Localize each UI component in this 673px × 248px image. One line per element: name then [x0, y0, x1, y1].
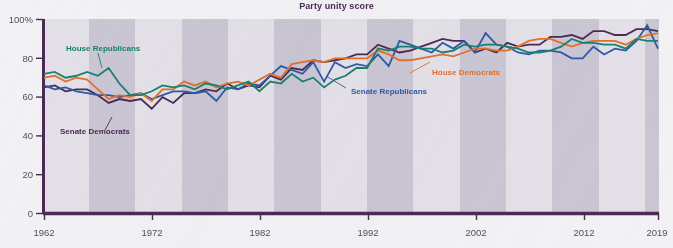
- chart-svg: 100% 80 60 40 20 0 1962 1972 1982 1992 2…: [0, 0, 673, 248]
- y-axis: [36, 19, 44, 214]
- annotation-senate-republicans: Senate Republicans: [351, 87, 428, 96]
- x-tick-2019: 2019: [646, 227, 667, 238]
- chart-container: Party unity score: [0, 0, 673, 248]
- y-tick-0: 0: [28, 208, 33, 219]
- y-tick-20: 20: [22, 169, 33, 180]
- y-tick-100: 100%: [9, 14, 34, 25]
- annotation-senate-democrats: Senate Democrats: [60, 127, 130, 136]
- x-tick-2002: 2002: [465, 227, 486, 238]
- x-tick-2012: 2012: [573, 227, 594, 238]
- x-tick-1962: 1962: [33, 227, 54, 238]
- y-tick-40: 40: [22, 130, 33, 141]
- x-tick-1982: 1982: [249, 227, 270, 238]
- x-tick-1992: 1992: [357, 227, 378, 238]
- annotation-house-republicans: House Republicans: [66, 44, 141, 53]
- y-tick-80: 80: [22, 53, 33, 64]
- x-axis: [43, 213, 659, 220]
- annotation-house-democrats: House Democrats: [432, 68, 501, 77]
- y-tick-60: 60: [22, 91, 33, 102]
- x-tick-1972: 1972: [141, 227, 162, 238]
